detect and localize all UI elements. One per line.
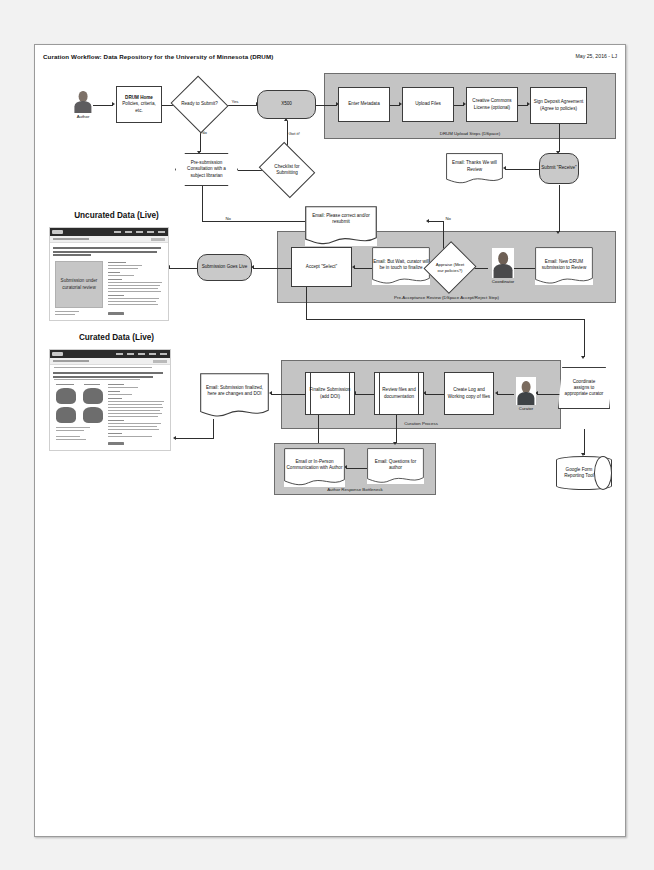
node-drum-home[interactable]: DRUM Home Policies, criteria, etc. (116, 86, 162, 123)
connector-emailquestions-to-inperson (346, 468, 367, 469)
node-creative-commons-license[interactable]: Creative Commons License (optional) (466, 87, 518, 122)
node-email-please-correct[interactable]: Email: Please correct and/or resubmit (305, 206, 377, 236)
node-review-files[interactable]: Review files and documentation (374, 372, 424, 415)
actor-curator: Curator (516, 377, 536, 405)
screenshot-breadcrumb (50, 236, 168, 243)
arrowhead (426, 219, 429, 223)
screenshot-download-button[interactable] (108, 442, 124, 445)
arrowhead (503, 166, 506, 170)
actor-label-author: Author (63, 114, 103, 119)
dataset-thumbnail (56, 388, 76, 404)
node-ready-to-submit[interactable]: Ready to Submit? (178, 85, 221, 124)
screenshot-headline (53, 251, 157, 253)
screenshot-headline (53, 254, 91, 256)
connector-emailcorrect-to-left (202, 221, 305, 222)
node-presubmission-consultation[interactable]: Pre-submission Consultation with a subje… (175, 153, 238, 186)
arrowhead (112, 102, 115, 106)
actor-author: Author (73, 87, 93, 113)
node-email-new-drum-submission[interactable]: Email: New DRUM submission to Review (535, 247, 593, 287)
connector-emailbutwait-to-accept (354, 268, 372, 269)
diagram-page: Curation Workflow: Data Repository for t… (0, 0, 654, 870)
email-questions-label: Email: Questions for author (368, 459, 423, 475)
uncurated-placeholder-box: Submission under curatorial review (55, 261, 103, 308)
connector-signdeposit-to-submit (559, 124, 560, 152)
node-email-or-in-person-communication[interactable]: Email or In-Person Communication with Au… (284, 448, 345, 486)
node-create-log[interactable]: Create Log and Working copy of files (444, 372, 494, 415)
connector-x500-to-entermetadata (316, 105, 337, 106)
email-in-person-label: Email or In-Person Communication with Au… (285, 459, 344, 475)
node-enter-metadata[interactable]: Enter Metadata (338, 87, 390, 122)
node-finalize-submission[interactable]: Finalize Submission (add DOI) (305, 372, 355, 415)
email-correct-label: Email: Please correct and/or resubmit (306, 213, 376, 229)
connector-accept-to-goeslive (253, 268, 291, 269)
date-stamp: May 25, 2016 - LJ (575, 53, 617, 59)
coordinator-photo (492, 248, 514, 278)
node-sign-deposit-agreement[interactable]: Sign Deposit Agreement (Agree to policie… (530, 87, 587, 124)
node-x500[interactable]: X500 (257, 90, 316, 119)
submit-receive-label: Submit "Receive" (541, 165, 576, 171)
x500-label: X500 (281, 101, 292, 107)
connector-accept-right (306, 319, 584, 320)
connector-finalize-to-emailfinalized (271, 394, 305, 395)
page-title: Curation Workflow: Data Repository for t… (43, 53, 273, 60)
email-but-wait-label: Email: But Wait, curator will be in touc… (373, 259, 429, 275)
connector-curator-to-createlog (497, 394, 514, 395)
connector-emailnewdrum-to-coordinator (513, 268, 535, 269)
node-email-questions-for-author[interactable]: Email: Questions for author (367, 448, 424, 486)
cc-license-label: Creative Commons License (optional) (468, 98, 516, 110)
screenshot-download-button[interactable] (108, 312, 124, 315)
umn-logo-icon (52, 352, 63, 356)
diagram-canvas: Curation Workflow: Data Repository for t… (34, 44, 626, 837)
node-accept-select[interactable]: Accept "Select" (291, 247, 352, 287)
arrowhead (173, 436, 176, 440)
create-log-label: Create Log and Working copy of files (446, 387, 492, 399)
edge-label-yes-submit: Yes (231, 99, 239, 104)
group-label-upload-steps: DRUM Upload Steps (DSpace) (325, 131, 615, 136)
connector-author-to-drumhome (93, 105, 113, 106)
uncurated-data-screenshot[interactable]: Submission under curatorial review (49, 227, 169, 321)
arrowhead (269, 391, 272, 395)
group-label-pre-acceptance: Pre-Acceptance Review (DSpace Accept/Rej… (278, 295, 615, 300)
screenshot-headline (53, 372, 163, 374)
enter-metadata-label: Enter Metadata (348, 101, 379, 107)
connector-submit-to-emailnewdrum (559, 185, 560, 232)
node-coordinate-assigns-curator[interactable]: Coordinate assigns to appropriate curato… (558, 367, 610, 409)
navbar-links (116, 353, 168, 355)
google-form-label: Google Form Reporting Tool (557, 467, 611, 479)
submission-goes-live-label: Submission Goes Live (202, 264, 248, 270)
sign-deposit-label: Sign Deposit Agreement (Agree to policie… (532, 99, 585, 111)
email-finalized-label: Email: Submission finalized, here are ch… (201, 385, 268, 401)
node-checklist-for-submitting[interactable]: Checklist for Submitting (265, 152, 309, 188)
screenshot-headline (53, 247, 161, 249)
navbar-links (114, 231, 166, 233)
edge-label-got-it: Got it! (288, 131, 300, 136)
node-appraise[interactable]: Appraise (Meet our policies?) (432, 248, 468, 287)
node-email-submission-finalized[interactable]: Email: Submission finalized, here are ch… (200, 373, 269, 413)
node-google-form-reporting-tool[interactable]: Google Form Reporting Tool (556, 456, 612, 490)
dataset-thumbnail (83, 388, 103, 404)
actor-coordinator: Coordinator (492, 248, 514, 278)
node-submit-receive[interactable]: Submit "Receive" (539, 153, 579, 184)
email-new-drum-label: Email: New DRUM submission to Review (536, 259, 592, 275)
arrowhead (581, 356, 585, 359)
uncurated-data-title: Uncurated Data (Live) (49, 211, 184, 220)
appraise-label: Appraise (Meet our policies?) (433, 262, 467, 273)
arrowhead (556, 231, 560, 234)
drum-home-subtitle: Policies, criteria, etc. (118, 101, 160, 113)
node-email-but-wait[interactable]: Email: But Wait, curator will be in touc… (372, 247, 430, 287)
connector-reviewfiles-to-finalize (355, 394, 374, 395)
connector-createlog-to-reviewfiles (425, 394, 444, 395)
node-email-thanks-we-will-review[interactable]: Email: Thanks We will Review (446, 153, 503, 184)
node-upload-files[interactable]: Upload Files (402, 87, 454, 122)
connector-emailfinalized-left (175, 438, 214, 439)
presubmission-label: Pre-submission Consultation with a subje… (183, 160, 231, 178)
accept-select-label: Accept "Select" (306, 264, 337, 270)
connector-goeslive-to-uncurated (169, 268, 197, 269)
curated-data-screenshot[interactable] (49, 349, 171, 451)
node-submission-goes-live[interactable]: Submission Goes Live (197, 254, 252, 281)
actor-label-coordinator: Coordinator (482, 279, 524, 284)
checklist-label: Checklist for Submitting (266, 164, 308, 176)
connector-right-down-to-coordinate (584, 319, 585, 357)
finalize-submission-label: Finalize Submission (add DOI) (307, 387, 353, 399)
arrowhead (495, 391, 498, 395)
